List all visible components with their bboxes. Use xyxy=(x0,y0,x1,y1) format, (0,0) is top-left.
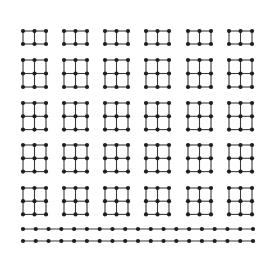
grid-graph xyxy=(62,101,89,132)
grid-graph xyxy=(227,58,254,89)
vertex xyxy=(238,29,242,33)
vertex xyxy=(155,212,159,216)
vertex xyxy=(167,128,171,132)
grid-graphs xyxy=(21,29,254,217)
vertex xyxy=(174,239,178,243)
vertex xyxy=(32,101,36,105)
grid-graph xyxy=(21,186,48,217)
vertex xyxy=(250,128,254,132)
vertex xyxy=(73,156,77,160)
vertex xyxy=(155,170,159,174)
vertex xyxy=(62,101,66,105)
vertex xyxy=(21,156,25,160)
vertex xyxy=(167,71,171,75)
grid-graph xyxy=(21,101,48,132)
vertex xyxy=(144,29,148,33)
vertex xyxy=(32,170,36,174)
vertex xyxy=(103,42,107,46)
vertex xyxy=(32,29,36,33)
vertex xyxy=(186,42,190,46)
vertex xyxy=(197,85,201,89)
vertex xyxy=(250,212,254,216)
vertex xyxy=(126,58,130,62)
vertex xyxy=(250,29,254,33)
vertex xyxy=(21,227,25,231)
vertex xyxy=(103,170,107,174)
grid-graph xyxy=(186,143,213,174)
vertex xyxy=(250,170,254,174)
vertex xyxy=(46,227,50,231)
vertex xyxy=(227,199,231,203)
vertex xyxy=(200,239,204,243)
chain-2 xyxy=(21,239,255,243)
vertex xyxy=(250,71,254,75)
vertex xyxy=(227,128,231,132)
vertex xyxy=(32,71,36,75)
vertex xyxy=(144,71,148,75)
vertex xyxy=(62,170,66,174)
vertex xyxy=(238,114,242,118)
row-4-grid-3x3 xyxy=(21,143,254,174)
vertex xyxy=(209,170,213,174)
vertex xyxy=(238,143,242,147)
vertex xyxy=(126,170,130,174)
grid-graph xyxy=(21,143,48,174)
vertex xyxy=(209,101,213,105)
vertex xyxy=(167,85,171,89)
vertex xyxy=(62,29,66,33)
vertex xyxy=(209,199,213,203)
vertex xyxy=(225,227,229,231)
vertex xyxy=(161,227,165,231)
vertex xyxy=(103,186,107,190)
vertex xyxy=(85,42,89,46)
vertex xyxy=(155,101,159,105)
vertex xyxy=(155,42,159,46)
vertex xyxy=(103,85,107,89)
vertex xyxy=(103,199,107,203)
row-1-grid-2x3 xyxy=(21,29,254,46)
vertex xyxy=(103,212,107,216)
vertex xyxy=(155,114,159,118)
grid-graph xyxy=(103,143,130,174)
chain-1 xyxy=(21,227,255,231)
vertex xyxy=(72,239,76,243)
vertex xyxy=(155,199,159,203)
vertex xyxy=(103,143,107,147)
vertex xyxy=(32,186,36,190)
vertex xyxy=(85,170,89,174)
vertex xyxy=(59,227,63,231)
grid-graph xyxy=(144,186,171,217)
vertex xyxy=(149,227,153,231)
vertex xyxy=(21,199,25,203)
vertex xyxy=(250,156,254,160)
vertex xyxy=(73,199,77,203)
vertex xyxy=(238,186,242,190)
vertex xyxy=(85,29,89,33)
vertex xyxy=(73,29,77,33)
vertex xyxy=(114,29,118,33)
grid-graph xyxy=(186,101,213,132)
vertex xyxy=(21,128,25,132)
grid-graph xyxy=(103,29,130,46)
vertex xyxy=(44,58,48,62)
vertex xyxy=(213,239,217,243)
vertex xyxy=(123,227,127,231)
vertex xyxy=(197,29,201,33)
vertex xyxy=(227,186,231,190)
vertex xyxy=(126,128,130,132)
vertex xyxy=(227,170,231,174)
vertex xyxy=(114,212,118,216)
vertex xyxy=(126,114,130,118)
vertex xyxy=(167,156,171,160)
vertex xyxy=(114,199,118,203)
vertex xyxy=(73,212,77,216)
vertex xyxy=(209,29,213,33)
vertex xyxy=(62,128,66,132)
vertex xyxy=(251,227,255,231)
vertex xyxy=(62,85,66,89)
grid-graph xyxy=(227,29,254,46)
vertex xyxy=(85,239,89,243)
vertex xyxy=(167,29,171,33)
vertex xyxy=(186,170,190,174)
vertex xyxy=(62,42,66,46)
